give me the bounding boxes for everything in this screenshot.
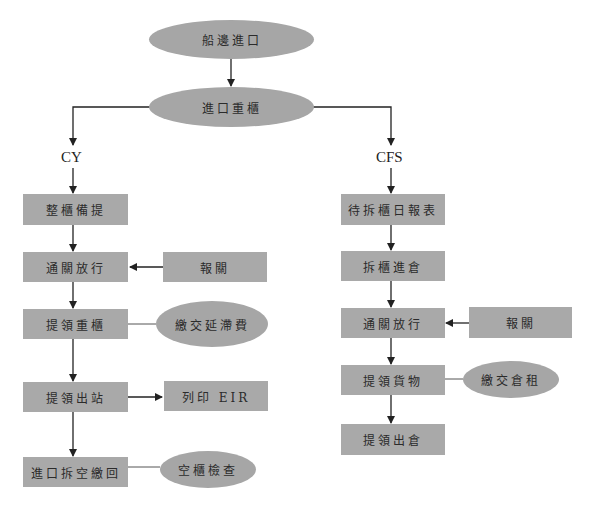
node-cy-print-eir: 列印 EIR (164, 381, 268, 411)
arrow-main-to-cfs (312, 107, 391, 145)
node-import-full-container: 進口重櫃 (149, 87, 314, 127)
node-ship-side-import: 船邊進口 (149, 20, 314, 59)
label-cfs: CFS (376, 149, 403, 166)
node-cy-pay-demurrage: 繳交延滯費 (156, 301, 268, 347)
node-cy-customs-release: 通關放行 (23, 252, 128, 282)
node-cfs-devan-into-warehouse: 拆櫃進倉 (341, 251, 445, 281)
node-cy-customs-declaration: 報關 (163, 252, 267, 282)
label-cy: CY (61, 149, 82, 166)
node-cy-full-container-ready: 整櫃備提 (23, 194, 128, 225)
node-cfs-pay-storage-fee: 繳交倉租 (463, 361, 559, 398)
node-cy-pickup-gate-out: 提領出站 (23, 382, 128, 412)
node-cy-empty-return: 進口拆空繳回 (23, 457, 128, 487)
node-cfs-pickup-warehouse-out: 提領出倉 (341, 424, 445, 455)
node-cfs-devanning-daily-report: 待拆櫃日報表 (341, 194, 445, 225)
node-cy-empty-container-check: 空櫃檢查 (160, 451, 256, 488)
arrow-main-to-cy (73, 107, 150, 145)
node-cy-pickup-full-container: 提領重櫃 (23, 309, 128, 339)
node-cfs-pickup-cargo: 提領貨物 (341, 365, 445, 395)
node-cfs-customs-declaration: 報關 (469, 307, 572, 338)
node-cfs-customs-release: 通關放行 (341, 308, 445, 338)
